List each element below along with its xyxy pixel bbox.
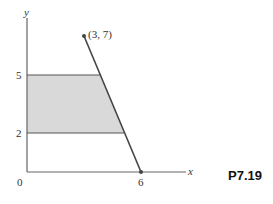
point-6-0 xyxy=(139,170,143,174)
shaded-region xyxy=(27,75,124,133)
y-tick-5: 5 xyxy=(16,69,22,81)
point-label: (3, 7) xyxy=(88,28,112,41)
x-tick-6: 6 xyxy=(138,176,144,188)
origin-label: 0 xyxy=(17,176,23,188)
y-axis-label: y xyxy=(23,6,29,18)
figure-id-label: P7.19 xyxy=(228,168,262,183)
y-tick-2: 2 xyxy=(16,127,22,139)
x-axis-label: x xyxy=(187,165,193,177)
point-3-7 xyxy=(82,34,86,38)
